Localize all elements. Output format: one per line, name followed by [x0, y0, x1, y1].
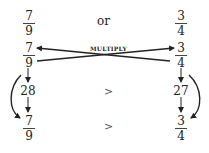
numerator: 3	[174, 10, 188, 22]
fraction-multiply-left: 7 9	[22, 42, 36, 69]
numerator: 3	[174, 115, 188, 127]
fraction-top-left: 7 9	[22, 10, 36, 37]
greater-than-result: >	[104, 121, 113, 133]
multiply-label: MULTIPLY	[90, 46, 127, 52]
denominator: 9	[22, 130, 36, 142]
product-left: 28	[18, 85, 38, 97]
denominator: 9	[22, 57, 36, 69]
greater-than-products: >	[104, 86, 113, 98]
numerator: 7	[22, 115, 36, 127]
denominator: 4	[174, 25, 188, 37]
numerator: 7	[22, 10, 36, 22]
denominator: 9	[22, 25, 36, 37]
denominator: 4	[174, 57, 188, 69]
fraction-multiply-right: 3 4	[174, 42, 188, 69]
denominator: 4	[174, 130, 188, 142]
or-label: or	[97, 15, 110, 27]
fraction-top-right: 3 4	[174, 10, 188, 37]
fraction-result-left: 7 9	[22, 115, 36, 142]
fraction-result-right: 3 4	[174, 115, 188, 142]
numerator: 7	[22, 42, 36, 54]
numerator: 3	[174, 42, 188, 54]
product-right: 27	[171, 85, 191, 97]
